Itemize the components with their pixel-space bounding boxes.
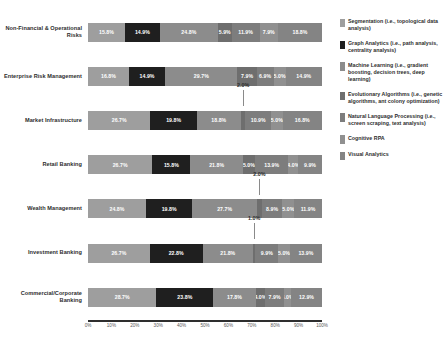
segment-value-label: 4.0% bbox=[256, 294, 266, 300]
segment-value-label: 21.8% bbox=[209, 162, 224, 168]
segment-value-label: 19.8% bbox=[166, 117, 181, 123]
legend-item[interactable]: Evolutionary Algorithms (i.e., genetic a… bbox=[340, 91, 444, 105]
bar-segment: 13.9% bbox=[290, 244, 322, 263]
category-label: Wealth Management bbox=[0, 205, 88, 212]
segment-value-label: 26.7% bbox=[111, 250, 126, 256]
stacked-bar: 24.8%19.8%27.7%8.9%5.0%11.9% bbox=[88, 199, 322, 218]
x-tick-label: 90% bbox=[294, 323, 303, 328]
segment-value-label: 18.8% bbox=[292, 29, 307, 35]
segment-value-label: 23.8% bbox=[177, 294, 192, 300]
bar-segment: 21.8% bbox=[203, 244, 253, 263]
bar-segment: 11.9% bbox=[232, 23, 260, 42]
bar-segment: 24.8% bbox=[160, 23, 218, 42]
callout-leader-line bbox=[259, 179, 260, 195]
legend-swatch-icon bbox=[340, 135, 345, 144]
bar-segment: 4.0% bbox=[256, 288, 266, 307]
segment-value-label: 5.0% bbox=[278, 250, 290, 256]
legend-swatch-icon bbox=[340, 92, 345, 101]
bar-segment: 26.7% bbox=[88, 244, 150, 263]
category-label: Non-Financial & Operational Risks bbox=[0, 25, 88, 40]
bar-segment: 12.9% bbox=[291, 288, 322, 307]
segment-value-label: 15.8% bbox=[164, 162, 179, 168]
bar-segment: 11.9% bbox=[294, 199, 322, 218]
category-label: Retail Banking bbox=[0, 161, 88, 168]
bar-segment: 16.8% bbox=[88, 67, 129, 86]
bar-segment: 5.0% bbox=[271, 111, 283, 130]
chart-row: Wealth Management24.8%19.8%27.7%8.9%5.0%… bbox=[0, 187, 336, 231]
legend-swatch-icon bbox=[340, 152, 345, 161]
segment-value-label: 26.7% bbox=[112, 117, 127, 123]
plot-area: Non-Financial & Operational Risks15.8%14… bbox=[0, 0, 336, 347]
segment-value-label: 26.7% bbox=[113, 162, 128, 168]
segment-value-label: 27.7% bbox=[217, 206, 232, 212]
segment-value-label: 21.8% bbox=[220, 250, 235, 256]
segment-value-label: 19.8% bbox=[162, 206, 177, 212]
chart-row: Non-Financial & Operational Risks15.8%14… bbox=[0, 10, 336, 54]
bar-segment: 5.0% bbox=[278, 244, 290, 263]
x-axis-line bbox=[88, 320, 322, 322]
bar-segment: 5.0% bbox=[282, 199, 294, 218]
legend-swatch-icon bbox=[340, 19, 345, 28]
x-tick-label: 80% bbox=[271, 323, 280, 328]
bar-segment: 4.0% bbox=[288, 155, 298, 174]
segment-value-label: 11.9% bbox=[301, 206, 316, 212]
segment-value-label: 6.9% bbox=[259, 73, 271, 79]
x-tick-label: 0% bbox=[85, 323, 92, 328]
x-tick-label: 20% bbox=[130, 323, 139, 328]
stacked-bar: 26.7%15.8%21.8%5.0%13.9%4.0%9.9% bbox=[88, 155, 322, 174]
bar-segment: 21.8% bbox=[190, 155, 243, 174]
legend-item[interactable]: Cognitive RPA bbox=[340, 135, 444, 144]
segment-value-label: 14.9% bbox=[140, 73, 155, 79]
legend-label: Evolutionary Algorithms (i.e., genetic a… bbox=[348, 91, 444, 105]
chart-row: Market Infrastructure26.7%19.8%18.8%10.9… bbox=[0, 98, 336, 142]
segment-value-label: 9.9% bbox=[261, 250, 273, 256]
category-label: Market Infrastructure bbox=[0, 117, 88, 124]
stacked-bar-chart: Non-Financial & Operational Risks15.8%14… bbox=[0, 0, 447, 347]
category-label: Investment Banking bbox=[0, 249, 88, 256]
x-tick-label: 50% bbox=[200, 323, 209, 328]
x-tick-label: 10% bbox=[107, 323, 116, 328]
segment-value-label: 13.9% bbox=[264, 162, 279, 168]
bar-segment: 19.8% bbox=[150, 111, 196, 130]
x-tick-label: 70% bbox=[247, 323, 256, 328]
segment-value-label: 15.8% bbox=[99, 29, 114, 35]
legend-item[interactable]: Machine Learning (i.e., gradient boostin… bbox=[340, 62, 444, 84]
segment-value-label: 22.8% bbox=[169, 250, 184, 256]
bar-segment: 5.9% bbox=[218, 23, 232, 42]
bar-segment: 18.8% bbox=[278, 23, 322, 42]
bar-segment: 22.8% bbox=[150, 244, 203, 263]
legend-item[interactable]: Visual Analytics bbox=[340, 151, 444, 160]
legend-label: Machine Learning (i.e., gradient boostin… bbox=[348, 62, 444, 84]
category-label: Enterprise Risk Management bbox=[0, 73, 88, 80]
segment-value-label: 16.8% bbox=[101, 73, 116, 79]
segment-value-label: 24.8% bbox=[181, 29, 196, 35]
legend-item[interactable]: Graph Analytics (i.e., path analysis, ce… bbox=[340, 40, 444, 54]
bar-segment: 3.0% bbox=[284, 288, 291, 307]
legend-item[interactable]: Segmentation (i.e., topological data ana… bbox=[340, 18, 444, 32]
segment-value-label: 7.9% bbox=[269, 294, 281, 300]
x-tick-label: 60% bbox=[224, 323, 233, 328]
segment-value-label: 9.9% bbox=[304, 162, 316, 168]
segment-value-label: 8.9% bbox=[266, 206, 278, 212]
segment-value-label: 18.8% bbox=[211, 117, 226, 123]
segment-value-label: 5.0% bbox=[282, 206, 294, 212]
chart-row: Investment Banking26.7%22.8%21.8%9.9%5.0… bbox=[0, 231, 336, 275]
bar-segment: 19.8% bbox=[146, 199, 192, 218]
bar-segment: 15.8% bbox=[152, 155, 190, 174]
bar-segment: 18.8% bbox=[197, 111, 241, 130]
bar-segment: 7.9% bbox=[265, 288, 284, 307]
segment-value-label: 12.9% bbox=[299, 294, 314, 300]
segment-value-label: 29.7% bbox=[194, 73, 209, 79]
legend-item[interactable]: Natural Language Processing (i.e., scree… bbox=[340, 113, 444, 127]
bar-segment: 14.9% bbox=[286, 67, 322, 86]
segment-value-label: 10.9% bbox=[251, 117, 266, 123]
segment-value-label: 17.8% bbox=[227, 294, 242, 300]
stacked-bar: 15.8%14.9%24.8%5.9%11.9%7.9%18.8% bbox=[88, 23, 322, 42]
legend-swatch-icon bbox=[340, 62, 345, 71]
callout-value-label: 2.0% bbox=[237, 82, 249, 88]
callout-leader-line bbox=[243, 90, 244, 106]
chart-row: Retail Banking26.7%15.8%21.8%5.0%13.9%4.… bbox=[0, 143, 336, 187]
segment-value-label: 5.0% bbox=[271, 117, 283, 123]
stacked-bar: 16.8%14.9%29.7%7.9%6.9%5.0%14.9% bbox=[88, 67, 322, 86]
bar-rows: Non-Financial & Operational Risks15.8%14… bbox=[0, 10, 336, 319]
